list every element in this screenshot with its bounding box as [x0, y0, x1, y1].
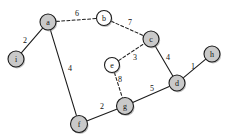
- edge-weight-a-f: 4: [68, 64, 72, 73]
- graph-node-b: b: [97, 11, 113, 27]
- graph-canvas: abcdefghi 2673418524: [0, 0, 225, 139]
- graph-node-e: e: [105, 58, 121, 74]
- graph-node-i: i: [8, 51, 25, 68]
- edge-weight-d-h: 1: [191, 62, 195, 71]
- graph-edge-a-f: [50, 30, 76, 115]
- node-label-d: d: [175, 79, 179, 88]
- graph-node-h: h: [204, 46, 221, 63]
- node-label-a: a: [46, 18, 50, 27]
- node-label-f: f: [78, 120, 81, 129]
- edge-weight-e-c: 3: [133, 53, 137, 62]
- edge-weight-b-c: 7: [128, 18, 132, 27]
- edge-weight-i-a: 2: [23, 36, 27, 45]
- graph-edge-c-d: [155, 46, 172, 75]
- graph-edge-f-g: [87, 109, 116, 120]
- edge-weight-a-b: 6: [75, 9, 79, 18]
- node-label-b: b: [102, 14, 106, 23]
- edge-weight-c-d: 4: [166, 53, 170, 62]
- graph-node-d: d: [169, 75, 186, 92]
- graph-node-g: g: [117, 98, 135, 116]
- node-label-e: e: [110, 61, 114, 70]
- graph-edge-e-c: [119, 44, 144, 61]
- node-label-c: c: [149, 35, 153, 44]
- node-label-g: g: [123, 102, 127, 111]
- edge-weight-e-g: 8: [118, 75, 122, 84]
- graph-node-c: c: [143, 31, 160, 48]
- graph-edge-a-b: [56, 19, 96, 22]
- edge-weight-g-d: 5: [150, 84, 154, 93]
- graph-node-f: f: [71, 116, 89, 134]
- edge-weight-f-g: 2: [100, 102, 104, 111]
- nodes-layer: abcdefghi: [8, 11, 221, 134]
- node-label-h: h: [210, 50, 214, 59]
- graph-diagram: abcdefghi 2673418524: [0, 0, 225, 139]
